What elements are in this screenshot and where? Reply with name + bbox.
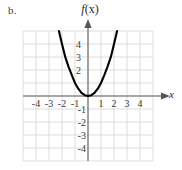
- x-axis-tick-labels: -4 -3 -2 -1 1 2 3 4: [32, 98, 143, 109]
- figure-panel: b. f(x) x: [0, 0, 182, 170]
- y-tick-label: -2: [78, 117, 86, 128]
- y-tick-label: 2: [76, 65, 81, 76]
- coordinate-plane: -4 -3 -2 -1 1 2 3 4 4 3 2 -1 -2 -3 -4: [0, 0, 182, 170]
- x-tick-label: -4: [32, 98, 40, 109]
- x-tick-label: 1: [99, 98, 104, 109]
- x-axis-arrowhead: [161, 92, 170, 99]
- x-tick-label: 2: [112, 98, 117, 109]
- y-tick-label: -4: [78, 143, 86, 154]
- y-tick-label: 4: [76, 39, 81, 50]
- y-tick-label: -1: [78, 104, 86, 115]
- y-tick-label: 3: [76, 52, 81, 63]
- x-tick-label: -2: [58, 98, 66, 109]
- y-tick-label: -3: [78, 130, 86, 141]
- x-tick-label: 4: [138, 98, 143, 109]
- x-tick-label: 3: [125, 98, 130, 109]
- x-tick-label: -3: [45, 98, 53, 109]
- y-axis-arrowhead: [84, 19, 91, 28]
